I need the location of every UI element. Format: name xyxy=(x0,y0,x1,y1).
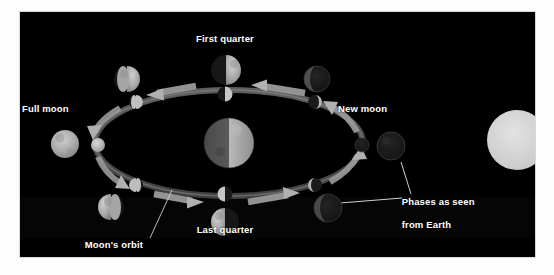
label-last-quarter: Last quarter xyxy=(170,224,280,236)
phase-moon-first-quarter xyxy=(211,55,241,85)
orbit-moon-first-quarter xyxy=(218,87,233,102)
phase-moon-waxing-crescent xyxy=(304,66,330,92)
orbit-moon-waning-gibbous xyxy=(129,178,143,192)
orbit-moon-waning-crescent xyxy=(308,178,322,192)
page-root: First quarter Full moon New moon Last qu… xyxy=(0,0,554,275)
label-phases-as-seen-from-earth: Phases as seen from Earth xyxy=(385,184,515,242)
label-moons-orbit-line1: Moon's orbit xyxy=(85,239,143,250)
earth-body xyxy=(204,118,254,168)
label-phases-line2: from Earth xyxy=(402,219,452,230)
orbit-moon-last-quarter xyxy=(218,187,233,202)
label-phases-line1: Phases as seen xyxy=(402,196,475,207)
sun-body xyxy=(487,110,535,170)
phases-of-the-moon-figure: First quarter Full moon New moon Last qu… xyxy=(20,12,535,257)
label-first-quarter: First quarter xyxy=(165,33,285,45)
phase-moon-waning-crescent xyxy=(314,194,342,222)
orbit-moon-waxing-gibbous xyxy=(129,95,143,109)
orbit-moon-full xyxy=(91,138,105,152)
phase-moon-waning-gibbous xyxy=(98,194,124,220)
phase-moon-waxing-gibbous xyxy=(114,66,140,92)
phase-moon-full xyxy=(51,130,79,158)
label-full-moon: Full moon xyxy=(22,103,112,115)
orbit-moon-new xyxy=(355,138,369,152)
label-moons-orbit-around-earth: Moon's orbit around Earth xyxy=(68,227,178,257)
label-new-moon: New moon xyxy=(338,103,428,115)
orbit-moon-waxing-crescent xyxy=(308,95,322,109)
phase-moon-new xyxy=(377,132,405,160)
